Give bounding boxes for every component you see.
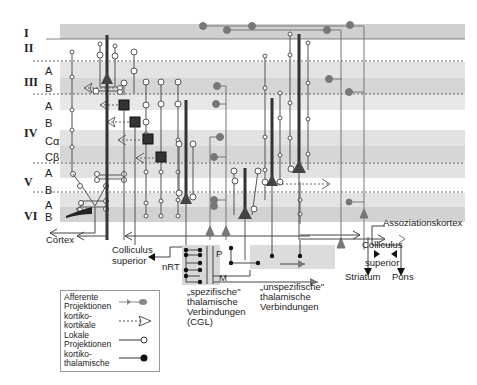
svg-text:Cβ: Cβ <box>45 151 59 163</box>
svg-text:IV: IV <box>24 126 38 140</box>
legend-symbols <box>61 291 159 371</box>
filled-circle-icon <box>119 355 148 362</box>
thalamus-region: P M <box>182 240 335 286</box>
svg-text:superior: superior <box>112 255 146 266</box>
layer-labels: I II III A B IV A B Cα Cβ V A B VI A B <box>24 26 60 223</box>
svg-text:(CGL): (CGL) <box>187 316 213 327</box>
svg-text:VI: VI <box>24 209 38 223</box>
legend: Afferente Projektionen kortiko- kortikal… <box>60 290 160 372</box>
svg-text:Verbindungen: Verbindungen <box>260 301 319 312</box>
svg-text:Cα: Cα <box>45 135 60 147</box>
open-circle-icon <box>119 337 147 343</box>
svg-text:Colliculus: Colliculus <box>112 244 153 255</box>
svg-text:M: M <box>219 272 227 283</box>
svg-text:A: A <box>45 65 53 77</box>
svg-text:B: B <box>45 117 52 129</box>
svg-text:V: V <box>24 175 33 189</box>
dashed-arrow-icon <box>119 316 151 326</box>
afferent-dot-icon <box>119 299 147 305</box>
svg-text:B: B <box>45 211 52 223</box>
svg-text:B: B <box>45 184 52 196</box>
svg-text:B: B <box>45 82 52 94</box>
svg-text:A: A <box>45 100 53 112</box>
svg-text:Colliculus: Colliculus <box>362 239 403 250</box>
svg-text:III: III <box>24 75 38 89</box>
svg-text:Striatum: Striatum <box>345 271 380 282</box>
svg-text:P: P <box>216 248 222 259</box>
svg-text:superior: superior <box>365 257 399 268</box>
svg-text:II: II <box>24 41 34 55</box>
svg-text:A: A <box>45 199 53 211</box>
svg-text:nRT: nRT <box>162 261 180 272</box>
svg-text:Cortex: Cortex <box>46 234 74 245</box>
svg-text:Pons: Pons <box>392 271 414 282</box>
svg-text:A: A <box>45 167 53 179</box>
svg-text:Assoziationskortex: Assoziationskortex <box>383 217 462 228</box>
svg-text:I: I <box>24 26 29 40</box>
